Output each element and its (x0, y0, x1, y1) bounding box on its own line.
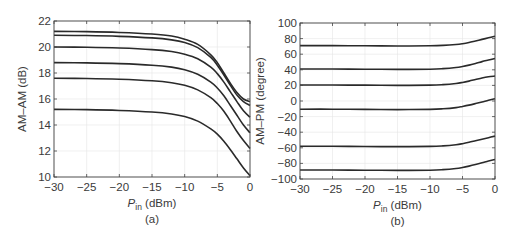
y-tick-label: −100 (271, 173, 297, 185)
x-tick-label: −15 (388, 183, 408, 195)
y-tick-label: −80 (277, 157, 297, 169)
y-axis-label: AM–AM (dB) (16, 66, 28, 132)
y-tick-label: −60 (277, 142, 297, 154)
y-tick-label: 80 (284, 33, 297, 45)
x-tick-labels: −30−25−20−15−10−50 (290, 183, 498, 195)
x-tick-label: −10 (175, 181, 195, 193)
x-axis-label: Pin (dBm) (373, 199, 422, 214)
x-tick-label: −10 (420, 183, 440, 195)
y-tick-label: 20 (38, 41, 51, 53)
x-axis-label-unit: (dBm) (142, 197, 177, 209)
y-tick-label: 20 (284, 79, 297, 91)
y-tick-label: 14 (38, 119, 51, 131)
y-tick-label: 16 (38, 93, 51, 105)
y-tick-label: 12 (38, 145, 51, 157)
figure: −30−25−20−15−10−50 10121416182022 AM–AM … (0, 0, 518, 234)
y-axis-label: AM–PM (degree) (254, 57, 266, 145)
x-tick-label: 0 (492, 183, 498, 195)
y-tick-label: 22 (38, 15, 51, 27)
y-tick-label: 40 (284, 64, 297, 76)
x-tick-label: −15 (142, 181, 162, 193)
am-pm-chart: −30−25−20−15−10−50 −100−80−60−40−2002040… (254, 17, 498, 227)
y-tick-label: −20 (277, 111, 297, 123)
y-tick-labels: 10121416182022 (38, 15, 51, 183)
x-axis-label-unit: (dBm) (387, 199, 422, 211)
x-tick-label: −25 (77, 181, 97, 193)
y-tick-label: 60 (284, 48, 297, 60)
x-tick-label: −5 (456, 183, 469, 195)
y-tick-label: 18 (38, 67, 51, 79)
grid (54, 21, 250, 177)
x-tick-label: −25 (323, 183, 343, 195)
y-tick-label: −40 (277, 126, 297, 138)
y-tick-label: 0 (291, 95, 297, 107)
x-tick-label: −20 (355, 183, 375, 195)
x-tick-label: 0 (247, 181, 253, 193)
am-am-chart: −30−25−20−15−10−50 10121416182022 AM–AM … (16, 15, 253, 225)
x-tick-labels: −30−25−20−15−10−50 (44, 181, 253, 193)
x-tick-label: −5 (211, 181, 224, 193)
panel-caption: (b) (390, 215, 404, 227)
panel-caption: (a) (145, 213, 159, 225)
y-tick-labels: −100−80−60−40−20020406080100 (271, 17, 297, 185)
x-tick-label: −20 (110, 181, 130, 193)
x-axis-label: Pin (dBm) (128, 197, 177, 212)
y-tick-label: 100 (278, 17, 297, 29)
y-tick-label: 10 (38, 171, 51, 183)
